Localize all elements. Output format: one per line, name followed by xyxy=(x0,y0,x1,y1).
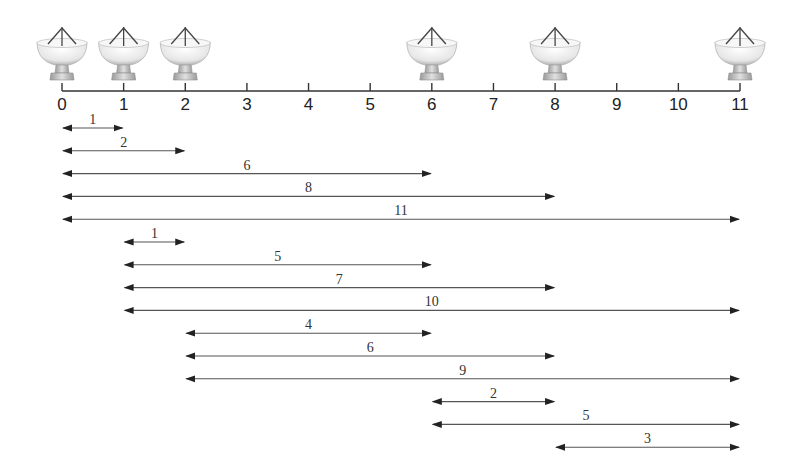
baseline-distance-label: 2 xyxy=(120,135,127,150)
baseline-distance-label: 8 xyxy=(305,180,312,195)
baseline-arrow: 1 xyxy=(63,112,123,128)
satellite-dish-icon xyxy=(407,27,457,80)
baseline-arrow: 5 xyxy=(433,408,739,424)
baseline-distance-label: 11 xyxy=(394,203,407,218)
axis-tick-label: 3 xyxy=(242,95,251,114)
axis-tick-label: 5 xyxy=(365,95,374,114)
baseline-distance-label: 1 xyxy=(151,226,158,241)
baseline-arrow: 9 xyxy=(186,363,739,379)
baseline-arrow: 10 xyxy=(125,294,739,310)
baseline-arrow: 4 xyxy=(186,317,431,333)
baseline-arrow: 1 xyxy=(125,226,185,242)
axis-tick-label: 11 xyxy=(731,95,749,114)
baseline-arrow: 11 xyxy=(63,203,739,219)
baseline-distance-label: 2 xyxy=(490,386,497,401)
satellite-dish-icon xyxy=(715,27,765,80)
axis-tick-label: 7 xyxy=(489,95,498,114)
baseline-distance-label: 3 xyxy=(644,431,651,446)
baseline-distance-label: 10 xyxy=(425,294,439,309)
baseline-distance-label: 6 xyxy=(243,158,250,173)
baseline-arrow: 6 xyxy=(63,158,431,174)
axis-tick-label: 8 xyxy=(550,95,559,114)
satellite-dish-icon xyxy=(160,27,210,80)
antenna-row xyxy=(37,27,765,80)
baseline-distance-label: 5 xyxy=(274,249,281,264)
position-axis: 01234567891011 xyxy=(57,83,749,114)
baseline-distance-label: 1 xyxy=(89,112,96,127)
satellite-dish-icon xyxy=(37,27,87,80)
baseline-arrows: 12681115710469253 xyxy=(63,112,739,447)
baseline-arrow: 6 xyxy=(186,340,554,356)
satellite-dish-icon xyxy=(530,27,580,80)
baseline-arrow: 5 xyxy=(125,249,431,265)
baseline-arrow: 3 xyxy=(556,431,739,447)
baseline-arrow: 8 xyxy=(63,180,554,196)
satellite-dish-icon xyxy=(99,27,149,80)
axis-tick-label: 6 xyxy=(427,95,436,114)
axis-tick-label: 10 xyxy=(669,95,688,114)
baseline-distance-label: 9 xyxy=(459,363,466,378)
baseline-arrow: 7 xyxy=(125,272,554,288)
baseline-distance-label: 7 xyxy=(336,272,343,287)
baseline-distance-label: 5 xyxy=(582,408,589,423)
antenna-baseline-diagram: 01234567891011 12681115710469253 xyxy=(0,0,795,475)
axis-tick-label: 2 xyxy=(181,95,190,114)
axis-tick-label: 9 xyxy=(612,95,621,114)
baseline-arrow: 2 xyxy=(433,386,554,402)
axis-tick-label: 1 xyxy=(119,95,128,114)
baseline-arrow: 2 xyxy=(63,135,184,151)
axis-tick-label: 0 xyxy=(57,95,66,114)
axis-tick-label: 4 xyxy=(304,95,313,114)
baseline-distance-label: 6 xyxy=(367,340,374,355)
baseline-distance-label: 4 xyxy=(305,317,312,332)
